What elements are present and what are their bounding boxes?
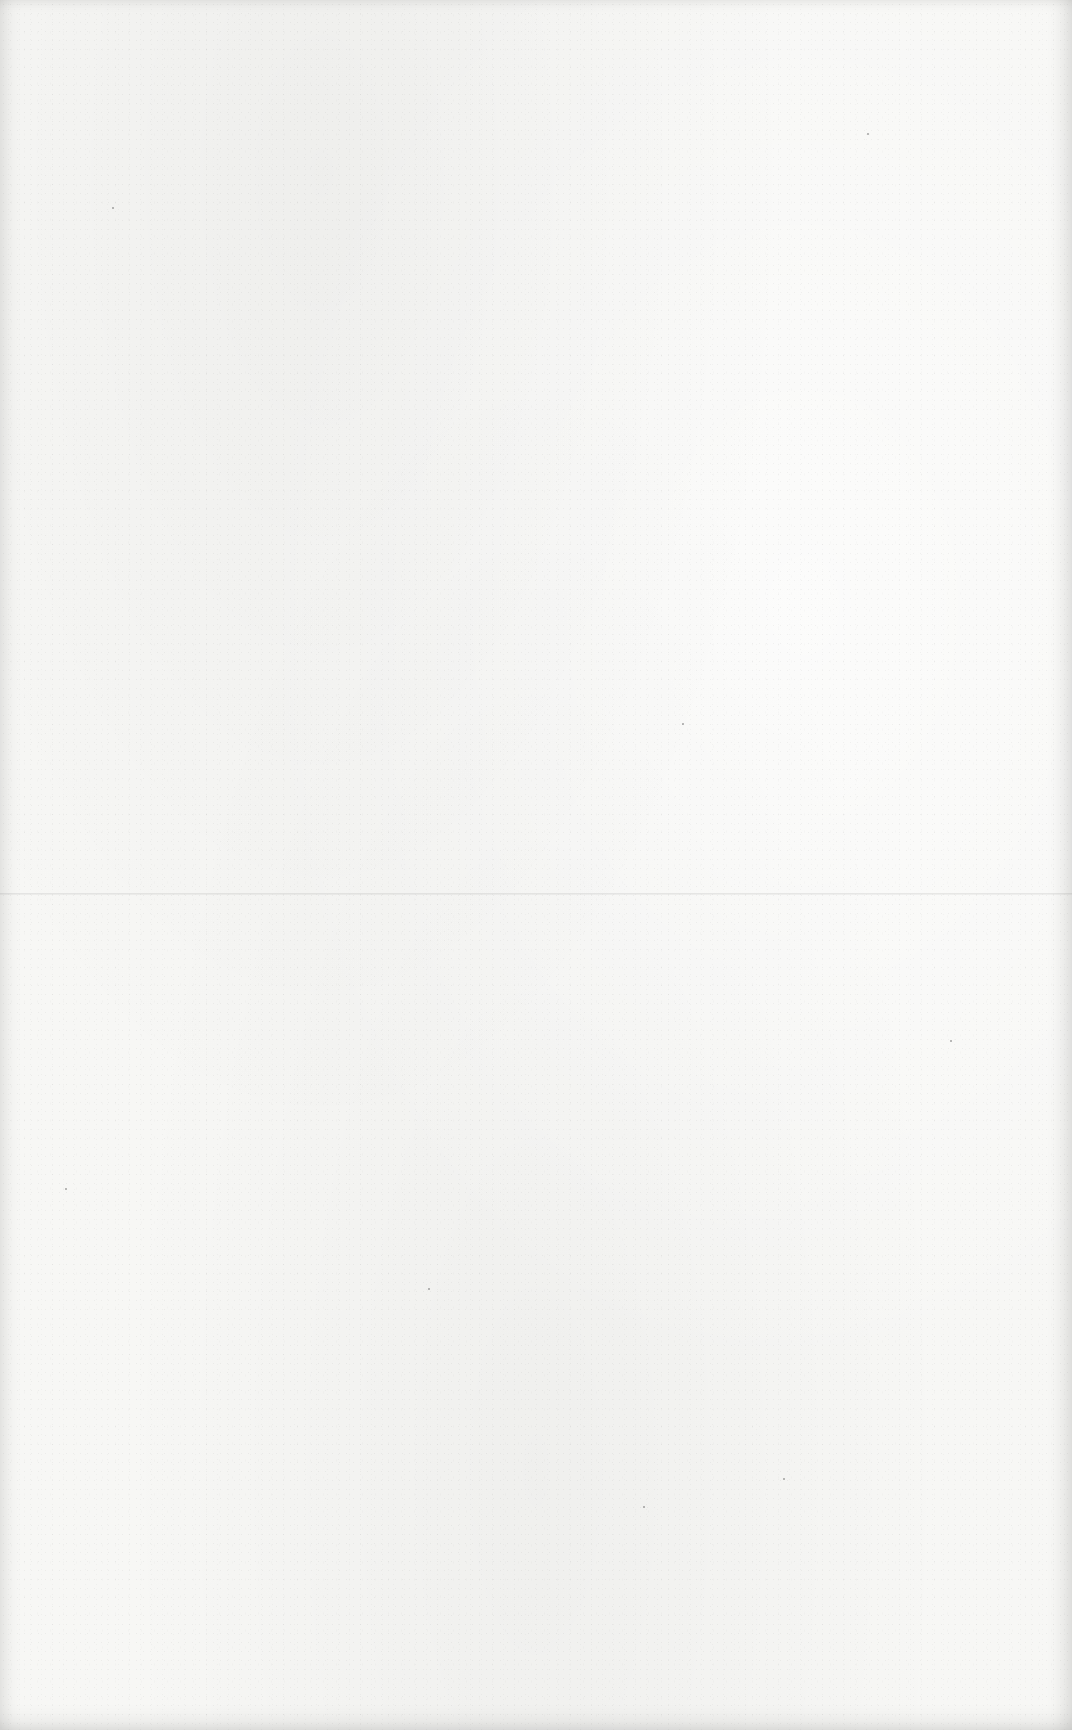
paper-speck: [783, 1478, 785, 1480]
paper-speck: [65, 1188, 67, 1190]
paper-speck: [682, 723, 684, 725]
paper-grain-texture: [0, 0, 1072, 1730]
blank-paper-page: [0, 0, 1072, 1730]
paper-speck: [867, 133, 869, 135]
fold-crease-line: [0, 893, 1072, 895]
paper-speck: [643, 1506, 645, 1508]
paper-speck: [112, 207, 114, 209]
scan-edge-shadow: [0, 0, 1072, 1730]
paper-speck: [428, 1288, 430, 1290]
paper-speck: [950, 1040, 952, 1042]
